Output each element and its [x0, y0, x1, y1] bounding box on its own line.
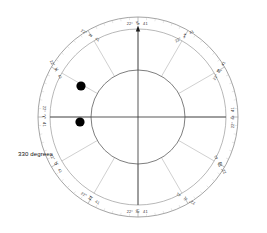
degree-tick — [212, 53, 214, 55]
degree-tick — [171, 23, 172, 26]
degree-tick — [41, 91, 44, 92]
degree-tick — [81, 197, 83, 199]
degree-tick — [104, 23, 105, 26]
degree-tick — [194, 35, 196, 37]
midheaven-arrow-icon — [136, 26, 140, 32]
degree-tick — [212, 179, 214, 181]
rim-degree: 22° — [127, 21, 134, 26]
degree-tick — [163, 20, 164, 23]
degree-tick — [218, 60, 220, 62]
zodiac-glyph-icon: ♎ — [229, 115, 235, 120]
rim-label-cancer: 22°♋41 — [127, 208, 148, 214]
rim-label-libra: 22°♎41 — [229, 107, 235, 128]
house-cusp-line-taurus — [62, 141, 98, 162]
rim-minutes: 41 — [94, 199, 100, 206]
zodiac-glyph-icon: ♊ — [87, 194, 94, 202]
degree-tick — [104, 208, 105, 211]
zodiac-glyph-icon: ♈ — [41, 114, 47, 119]
degree-tick — [96, 205, 97, 208]
degree-tick — [194, 197, 196, 199]
degree-tick — [226, 158, 229, 159]
chart-wheel-svg: 22°♑4122°♐4122°♏4122°♎4122°♍4122°♌4122°♋… — [0, 0, 267, 233]
degree-tick — [67, 46, 69, 48]
house-cusp-line-scorpio — [179, 73, 215, 94]
zodiac-glyph-icon: ♒ — [87, 31, 94, 39]
degree-tick — [200, 191, 202, 193]
midheaven-arrow-icon — [136, 26, 140, 32]
degree-tick — [200, 40, 202, 42]
rim-minutes: 41 — [230, 107, 235, 112]
degree-tick — [171, 208, 172, 211]
cardinal-axis-lines — [50, 29, 226, 205]
degree-tick — [229, 83, 232, 84]
rim-label-leo: 22°♌41 — [175, 191, 196, 207]
degree-tick — [96, 26, 97, 29]
rim-minutes: 41 — [212, 154, 219, 160]
degree-tick — [163, 211, 164, 214]
zodiac-glyph-icon: ♑ — [135, 20, 140, 26]
degree-tick — [47, 158, 50, 159]
degree-tick — [74, 191, 76, 193]
rim-label-gemini: 22°♊41 — [80, 190, 101, 206]
degree-tick — [112, 20, 113, 23]
planet-point-lower — [75, 117, 84, 126]
degree-tick — [112, 211, 113, 214]
degree-tick — [229, 150, 232, 151]
rim-minutes: 41 — [143, 209, 148, 214]
degree-tick — [218, 173, 220, 175]
zodiac-glyph-icon: ♐ — [181, 32, 188, 40]
rim-minutes: 41 — [175, 191, 181, 198]
rim-minutes: 41 — [220, 60, 227, 66]
degree-tick — [179, 26, 180, 29]
planet-point-upper — [76, 81, 85, 90]
zodiac-glyph-icon: ♋ — [135, 208, 140, 214]
rim-degree: 22° — [42, 106, 47, 113]
rim-label-aries: 22°♈41 — [41, 106, 47, 127]
zodiac-glyph-icon: ♉ — [53, 160, 61, 167]
rim-minutes: 41 — [57, 167, 64, 173]
rim-degree: 22° — [127, 209, 134, 214]
rim-minutes: 41 — [57, 73, 64, 79]
degree-tick — [61, 179, 63, 181]
degree-tick — [207, 186, 209, 188]
house-cusp-line-aquarius — [94, 41, 115, 77]
astrological-chart: 22°♑4122°♐4122°♏4122°♎4122°♍4122°♌4122°♋… — [0, 0, 267, 233]
house-cusp-line-gemini — [94, 158, 115, 194]
rim-label-pisces: 22°♓41 — [48, 59, 64, 80]
house-cusp-line-leo — [162, 158, 183, 194]
planet-markers — [75, 81, 85, 126]
degree-tick — [74, 40, 76, 42]
rim-label-virgo: 22°♍41 — [212, 154, 228, 175]
zodiac-glyph-icon: ♍ — [216, 161, 224, 168]
rim-degree: 22° — [80, 191, 88, 199]
degree-tick — [67, 186, 69, 188]
degree-tick — [56, 173, 58, 175]
house-cusp-line-virgo — [179, 141, 215, 162]
degree-tick — [232, 142, 235, 143]
rim-minutes: 41 — [42, 122, 47, 127]
degree-tick — [61, 53, 63, 55]
rim-minutes: 41 — [94, 36, 100, 43]
degree-tick — [179, 205, 180, 208]
degree-tick — [44, 83, 47, 84]
rim-label-sagittarius: 22°♐41 — [174, 28, 195, 44]
zodiac-glyph-icon: ♏ — [215, 67, 223, 74]
degrees-annotation: 330 degrees — [18, 150, 53, 157]
zodiac-glyph-icon: ♓ — [53, 66, 60, 73]
degree-tick — [226, 75, 229, 76]
degree-tick — [207, 46, 209, 48]
degree-tick — [232, 91, 235, 92]
rim-minutes: 41 — [143, 21, 148, 26]
zodiac-glyph-icon: ♌ — [182, 195, 189, 202]
degree-tick — [47, 75, 50, 76]
degree-tick — [41, 142, 44, 143]
house-cusp-line-sagittarius — [162, 41, 183, 77]
degree-tick — [81, 35, 83, 37]
rim-label-capricorn: 22°♑41 — [127, 20, 148, 26]
degree-tick — [56, 60, 58, 62]
rim-degree: 22° — [230, 122, 235, 129]
rim-label-aquarius: 22°♒41 — [80, 27, 101, 43]
rim-label-scorpio: 22°♏41 — [211, 60, 227, 81]
